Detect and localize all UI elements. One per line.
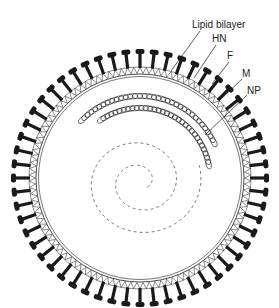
rna-dashed-spiral	[91, 143, 201, 233]
label-m: M	[242, 69, 250, 79]
virion-diagram	[0, 0, 279, 308]
label-f: F	[227, 51, 233, 61]
nucleocapsid-coils	[77, 93, 218, 169]
label-hn: HN	[212, 34, 226, 44]
glycoprotein-spikes	[11, 49, 269, 307]
label-lipid-bilayer: Lipid bilayer	[192, 20, 245, 30]
matrix-protein-layer	[39, 77, 242, 280]
label-np: NP	[247, 86, 261, 96]
lipid-bilayer-ring	[29, 67, 251, 289]
